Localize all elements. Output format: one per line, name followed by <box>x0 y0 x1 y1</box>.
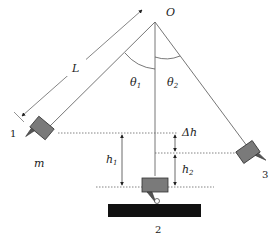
delta-h-label: Δh <box>181 126 197 139</box>
theta1-label: θ1 <box>130 76 141 90</box>
theta1-arc <box>125 53 155 69</box>
h1-label: h1 <box>106 153 118 167</box>
mass-label: m <box>34 157 44 170</box>
block-position1 <box>23 116 54 147</box>
theta2-label: θ2 <box>167 76 179 90</box>
position1-label: 1 <box>10 128 16 139</box>
block-position3 <box>236 141 266 172</box>
h2-label: h2 <box>182 163 194 177</box>
length-label: L <box>71 62 79 75</box>
block-position2 <box>142 178 168 204</box>
pivot-label: O <box>166 6 175 19</box>
theta2-arc <box>155 56 180 59</box>
position3-label: 3 <box>262 169 268 180</box>
base-platform <box>108 204 201 217</box>
position2-label: 2 <box>155 224 161 235</box>
pendulum-diagram: L O θ1 θ2 h1 Δh h2 1 m 2 3 <box>0 0 276 238</box>
